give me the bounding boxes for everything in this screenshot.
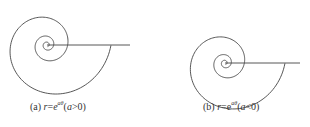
log-spiral-a <box>10 17 111 94</box>
figure-b <box>190 37 300 109</box>
log-spiral-b <box>190 37 285 109</box>
caption-a: (a) r=eaθ(a>0) <box>30 100 86 112</box>
caption-label: (b) <box>203 101 215 112</box>
caption-b: (b) r=eaθ(a<0) <box>203 100 259 112</box>
caption-paren: ) <box>83 101 86 112</box>
caption-paren: ) <box>256 101 259 112</box>
figure-a <box>10 17 130 94</box>
caption-label: (a) <box>30 101 41 112</box>
